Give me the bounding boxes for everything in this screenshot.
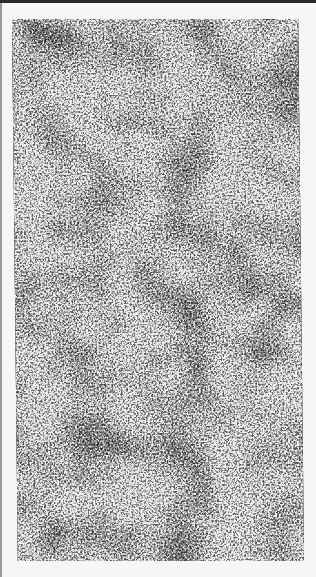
fibrous-texture-image bbox=[12, 19, 304, 561]
left-border-line bbox=[0, 3, 2, 577]
texture-graphic bbox=[12, 19, 304, 561]
page bbox=[0, 0, 316, 577]
top-border-line bbox=[0, 0, 316, 3]
